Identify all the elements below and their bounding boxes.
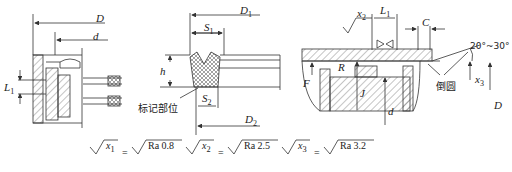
label-D-right: D bbox=[494, 100, 502, 111]
legend-x1: x1 bbox=[106, 140, 115, 154]
label-J: J bbox=[360, 88, 365, 99]
label-mark-position: 标记部位 bbox=[138, 104, 178, 114]
label-S1: S1 bbox=[204, 22, 214, 36]
label-S2: S2 bbox=[202, 93, 212, 107]
legend-ra-3: Ra 3.2 bbox=[340, 140, 366, 151]
label-d: d bbox=[93, 31, 99, 42]
legend-eq-2: = bbox=[218, 147, 224, 158]
label-L1-left: L1 bbox=[4, 82, 14, 96]
label-L1-right: L1 bbox=[380, 5, 390, 19]
legend-x2: x2 bbox=[202, 140, 211, 154]
label-D2-letter: D bbox=[245, 113, 253, 125]
label-L1r-sub: 1 bbox=[386, 10, 390, 19]
label-x2: x2 bbox=[357, 8, 366, 22]
label-d-right: d bbox=[388, 106, 394, 117]
label-D2: D2 bbox=[245, 114, 257, 128]
legend-x1-sub: 1 bbox=[110, 145, 114, 154]
left-view bbox=[18, 14, 122, 128]
label-h: h bbox=[160, 66, 166, 77]
legend-x3: x3 bbox=[298, 140, 307, 154]
label-D2-sub: 2 bbox=[253, 119, 257, 128]
label-D1-letter: D bbox=[240, 4, 248, 16]
middle-view bbox=[160, 13, 280, 135]
label-C: C bbox=[422, 17, 429, 28]
label-S2-sub: 2 bbox=[208, 98, 212, 107]
legend-x3-sub: 3 bbox=[302, 145, 306, 154]
legend-ra-2: Ra 2.5 bbox=[244, 140, 270, 151]
label-x3-sub: 3 bbox=[480, 79, 484, 88]
label-R: R bbox=[338, 62, 345, 73]
label-chamfer: 倒圆 bbox=[436, 82, 456, 92]
label-S1-sub: 1 bbox=[210, 27, 214, 36]
roughness-legend-symbols bbox=[90, 140, 374, 154]
label-F: F bbox=[303, 78, 310, 89]
legend-x2-sub: 2 bbox=[206, 145, 210, 154]
label-L1-sub: 1 bbox=[10, 87, 14, 96]
label-D: D bbox=[96, 13, 104, 24]
right-view bbox=[302, 14, 490, 125]
label-angle: 20°~30° bbox=[470, 42, 509, 51]
legend-eq-1: = bbox=[122, 147, 128, 158]
label-x2-sub: 2 bbox=[362, 13, 366, 22]
legend-ra-1: Ra 0.8 bbox=[148, 140, 174, 151]
label-D1-sub: 1 bbox=[248, 10, 252, 19]
label-x3: x3 bbox=[475, 74, 484, 88]
legend-eq-3: = bbox=[314, 147, 320, 158]
label-D1: D1 bbox=[240, 5, 252, 19]
